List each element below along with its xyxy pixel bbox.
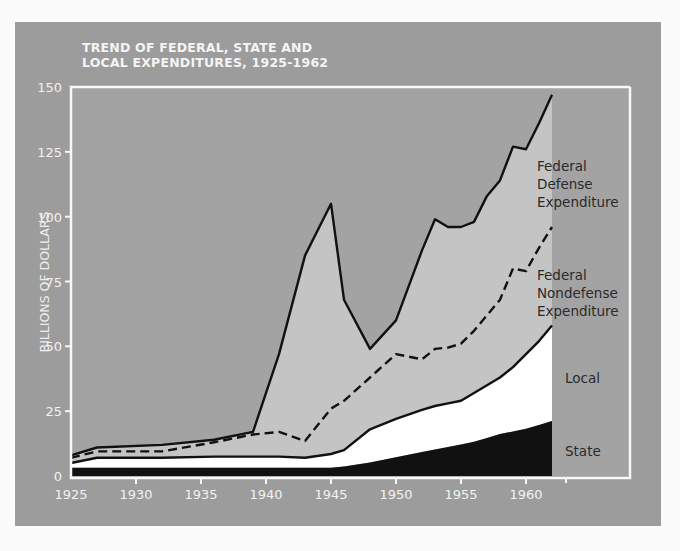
x-tick-label: 1925 [54,487,87,502]
label-federal-nondefense: Nondefense [537,285,618,301]
y-tick-label: 50 [45,339,62,354]
x-tick-label: 1930 [119,487,152,502]
x-tick-label: 1935 [184,487,217,502]
label-federal-defense: Federal [537,158,587,174]
y-tick-label: 125 [37,145,62,160]
label-federal-defense: Defense [537,176,593,192]
chart-plot: 0255075100125150192519301935194019451950… [0,0,680,551]
x-tick-label: 1945 [314,487,347,502]
label-federal-nondefense: Federal [537,267,587,283]
x-tick-label: 1955 [444,487,477,502]
y-tick-label: 100 [37,210,62,225]
label-federal-nondefense: Expenditure [537,303,619,319]
x-tick-label: 1950 [379,487,412,502]
label-local: Local [565,370,600,386]
y-tick-label: 150 [37,80,62,95]
label-federal-defense: Expenditure [537,194,619,210]
y-tick-label: 75 [45,275,62,290]
y-tick-label: 25 [45,404,62,419]
y-tick-label: 0 [54,469,62,484]
x-tick-label: 1960 [509,487,542,502]
label-state: State [565,443,601,459]
x-tick-label: 1940 [249,487,282,502]
